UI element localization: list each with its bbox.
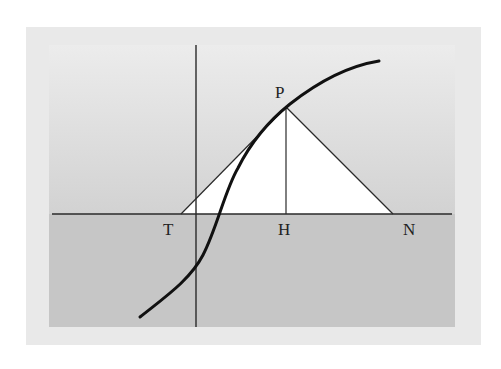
label-N: N (403, 220, 415, 239)
lower-panel (49, 214, 455, 327)
label-H: H (278, 220, 290, 239)
tangent-normal-diagram: P T H N (0, 0, 501, 369)
diagram-stage: P T H N (0, 0, 501, 369)
label-T: T (163, 220, 174, 239)
label-P: P (275, 83, 284, 102)
